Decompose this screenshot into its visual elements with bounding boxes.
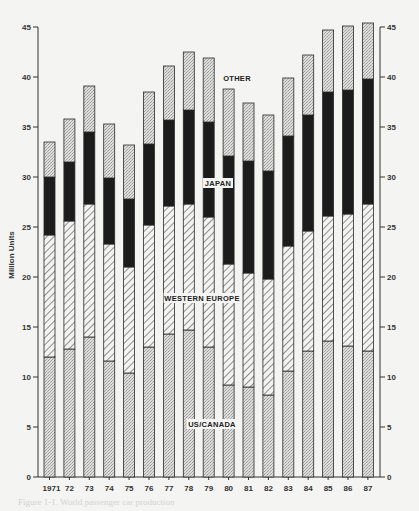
bar-segment-other <box>343 26 354 90</box>
bar-segment-japan <box>84 132 95 204</box>
bar-segment-western-europe <box>303 231 314 351</box>
y-tick-label-right: 10 <box>387 373 396 382</box>
bar-segment-japan <box>64 162 75 221</box>
bar-segment-other <box>223 89 234 156</box>
bar-segment-japan <box>223 156 234 264</box>
bar-segment-us-canada <box>323 341 334 477</box>
x-tick-label: 78 <box>184 484 193 493</box>
bar-segment-western-europe <box>283 246 294 371</box>
bar-segment-other <box>44 142 55 177</box>
bar-segment-western-europe <box>64 221 75 349</box>
bar-segment-japan <box>163 120 174 206</box>
bar-segment-japan <box>144 144 155 225</box>
bar-segment-western-europe <box>104 244 115 361</box>
bar-segment-japan <box>303 115 314 231</box>
bar-segment-western-europe <box>183 204 194 330</box>
y-tick-label-right: 15 <box>387 323 396 332</box>
bar-segment-western-europe <box>223 264 234 385</box>
y-tick-label-right: 5 <box>387 423 392 432</box>
label-us-canada: US/CANADA <box>188 420 236 429</box>
bar-segment-other <box>163 66 174 120</box>
y-tick-label-right: 25 <box>387 223 396 232</box>
bar-segment-us-canada <box>203 347 214 477</box>
y-tick-label-left: 0 <box>27 473 32 482</box>
y-tick-label-right: 20 <box>387 273 396 282</box>
bar-segment-other <box>84 86 95 132</box>
bar-segment-us-canada <box>183 330 194 477</box>
bars <box>44 23 373 477</box>
x-tick-label: 75 <box>125 484 134 493</box>
bar-segment-us-canada <box>243 387 254 477</box>
label-other: OTHER <box>223 74 251 83</box>
bar-segment-other <box>243 103 254 161</box>
bar-segment-japan <box>183 110 194 204</box>
bar-segment-western-europe <box>163 206 174 334</box>
bar-segment-japan <box>44 177 55 235</box>
bar-segment-western-europe <box>343 214 354 346</box>
bar-segment-other <box>64 119 75 162</box>
bar-segment-japan <box>104 178 115 244</box>
y-tick-label-right: 30 <box>387 173 396 182</box>
bar-segment-japan <box>343 90 354 214</box>
label-western-europe: WESTERN EUROPE <box>164 294 239 303</box>
figure-caption: Figure 1-1. World passenger car producti… <box>18 497 175 507</box>
x-tick-label: 73 <box>85 484 94 493</box>
bar-segment-western-europe <box>84 204 95 337</box>
x-tick-label: 77 <box>164 484 173 493</box>
y-tick-label-left: 45 <box>22 23 31 32</box>
bar-segment-japan <box>124 199 135 267</box>
bar-segment-japan <box>283 136 294 246</box>
bar-segment-us-canada <box>343 346 354 477</box>
bar-segment-us-canada <box>163 334 174 477</box>
bar-segment-other <box>203 58 214 122</box>
bar-segment-us-canada <box>144 347 155 477</box>
y-tick-label-left: 5 <box>27 423 32 432</box>
bar-segment-other <box>263 115 274 171</box>
x-tick-label: 86 <box>344 484 353 493</box>
bar-segment-us-canada <box>283 371 294 477</box>
bar-segment-us-canada <box>263 395 274 477</box>
bar-segment-western-europe <box>124 267 135 373</box>
bar-segment-western-europe <box>362 204 373 351</box>
x-tick-label: 81 <box>244 484 253 493</box>
y-tick-label-left: 20 <box>22 273 31 282</box>
y-axis-label: Million Units <box>7 231 16 279</box>
bar-segment-us-canada <box>303 351 314 477</box>
bar-segment-japan <box>243 161 254 273</box>
y-tick-label-left: 35 <box>22 123 31 132</box>
bar-segment-other <box>303 55 314 115</box>
y-tick-label-right: 35 <box>387 123 396 132</box>
bar-segment-japan <box>362 79 373 204</box>
bar-segment-japan <box>203 122 214 217</box>
bar-segment-us-canada <box>223 385 234 477</box>
bar-segment-western-europe <box>144 225 155 347</box>
bar-segment-western-europe <box>263 279 274 395</box>
x-tick-label: 83 <box>284 484 293 493</box>
bar-segment-us-canada <box>84 337 95 477</box>
bar-segment-us-canada <box>104 361 115 477</box>
bar-segment-us-canada <box>362 351 373 477</box>
bar-segment-western-europe <box>243 273 254 387</box>
y-tick-label-left: 25 <box>22 223 31 232</box>
stacked-bar-chart: 005510101515202025253030353540404545Mill… <box>0 0 419 511</box>
y-tick-label-right: 45 <box>387 23 396 32</box>
y-tick-label-right: 40 <box>387 73 396 82</box>
bar-segment-western-europe <box>203 217 214 347</box>
x-tick-label: 82 <box>264 484 273 493</box>
y-tick-label-right: 0 <box>387 473 392 482</box>
bar-segment-us-canada <box>124 373 135 477</box>
x-tick-label: 85 <box>324 484 333 493</box>
y-tick-label-left: 40 <box>22 73 31 82</box>
bar-segment-us-canada <box>64 349 75 477</box>
label-japan: JAPAN <box>205 179 231 188</box>
y-tick-label-left: 10 <box>22 373 31 382</box>
bar-segment-japan <box>263 171 274 279</box>
bar-segment-us-canada <box>44 357 55 477</box>
x-tick-label: 80 <box>224 484 233 493</box>
bar-segment-other <box>144 92 155 144</box>
bar-segment-western-europe <box>323 216 334 341</box>
x-tick-label: 79 <box>204 484 213 493</box>
bar-segment-other <box>283 78 294 136</box>
bar-segment-other <box>362 23 373 79</box>
x-tick-label: 74 <box>105 484 114 493</box>
